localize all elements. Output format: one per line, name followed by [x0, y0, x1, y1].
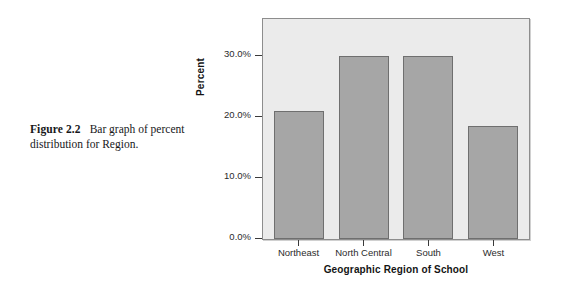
y-axis-title: Percent [195, 58, 206, 96]
y-tick-mark-0 [255, 238, 262, 239]
y-tick-label-1: 10.0% [224, 170, 251, 181]
x-label-northeast: Northeast [266, 247, 331, 258]
bar-slot-3 [461, 19, 526, 239]
y-tick-label-0: 0.0% [229, 231, 251, 242]
x-tick-slot-0 [266, 240, 331, 246]
y-tick-mark-1 [255, 177, 262, 178]
plot-area [262, 18, 530, 240]
bar-slot-2 [396, 19, 461, 239]
figure-number: Figure 2.2 [30, 123, 81, 135]
x-label-north-central: North Central [331, 247, 396, 258]
x-label-west: West [461, 247, 526, 258]
bar-slot-1 [332, 19, 397, 239]
x-axis-ticks [262, 240, 530, 246]
figure-caption: Figure 2.2Bar graph of percent distribut… [30, 122, 200, 152]
x-axis-labels: Northeast North Central South West [262, 247, 530, 258]
y-tick-mark-3 [255, 55, 262, 56]
bar-northeast[interactable] [274, 111, 324, 239]
y-tick-label-2: 20.0% [224, 109, 251, 120]
bar-chart-figure: Percent 0.0% 10.0% 20.0% 30.0% [190, 0, 562, 294]
x-tick-slot-3 [461, 240, 526, 246]
x-tick-slot-2 [396, 240, 461, 246]
x-axis-title: Geographic Region of School [262, 264, 530, 275]
x-tick-mark-1 [363, 240, 364, 246]
y-tick-label-3: 30.0% [224, 48, 251, 59]
x-tick-mark-2 [428, 240, 429, 246]
bar-west[interactable] [468, 126, 518, 239]
bars-container [263, 19, 529, 239]
x-label-south: South [396, 247, 461, 258]
x-tick-mark-0 [298, 240, 299, 246]
bar-south[interactable] [403, 56, 453, 239]
bar-north-central[interactable] [339, 56, 389, 239]
bar-slot-0 [267, 19, 332, 239]
x-tick-slot-1 [331, 240, 396, 246]
y-tick-mark-2 [255, 116, 262, 117]
x-tick-mark-3 [493, 240, 494, 246]
